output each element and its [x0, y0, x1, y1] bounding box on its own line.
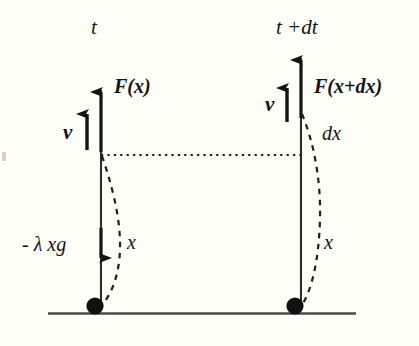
- time-label-left: t: [91, 17, 97, 38]
- chain-curve-right: [302, 114, 321, 306]
- length-label-right: x: [324, 232, 333, 252]
- length-label-left: x: [127, 232, 136, 252]
- scan-artifact: [2, 152, 6, 161]
- delta-label-right: dx: [322, 123, 341, 143]
- chain-curve-left: [102, 156, 121, 306]
- velocity-label-left: v: [63, 122, 72, 143]
- panel-left: [86, 90, 120, 315]
- chain-pile-left: [86, 297, 103, 314]
- diagram-canvas: [0, 0, 419, 346]
- force-label-right: F(x+dx): [314, 76, 382, 96]
- weight-label-left: - λ xg: [22, 234, 66, 254]
- chain-pile-right: [286, 297, 303, 314]
- velocity-label-right: v: [265, 94, 274, 115]
- force-label-left: F(x): [114, 76, 151, 96]
- physics-diagram: t F(x) v - λ xg x t +dt F(x+dx) v dx x: [0, 0, 419, 346]
- time-label-right: t +dt: [276, 17, 318, 38]
